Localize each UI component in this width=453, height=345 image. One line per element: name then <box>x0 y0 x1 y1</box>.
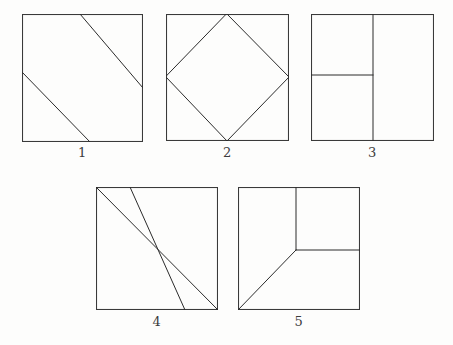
figure-1-diagonal-lower <box>22 72 90 142</box>
figure-3-drawing <box>311 14 434 141</box>
figure-4-caption: 4 <box>96 314 218 329</box>
figure-1-caption: 1 <box>22 145 143 160</box>
figure-3[interactable] <box>311 14 434 141</box>
figure-2-drawing <box>166 14 289 141</box>
figure-4-diagonal-parallel <box>130 187 185 310</box>
figure-1-drawing <box>22 14 143 142</box>
figure-5-caption: 5 <box>238 314 360 329</box>
figure-5-drawing <box>238 187 360 310</box>
figure-2-square <box>167 15 289 141</box>
figure-5[interactable] <box>238 187 360 310</box>
figure-1-diagonal-upper <box>80 14 143 88</box>
figure-2[interactable] <box>166 14 289 141</box>
figure-3-caption: 3 <box>311 145 434 160</box>
worksheet-canvas: 1 2 3 4 5 <box>0 0 453 345</box>
figure-5-diagonal-lower-left <box>238 250 296 310</box>
figure-4[interactable] <box>96 187 218 310</box>
figure-1-square <box>23 15 143 142</box>
figure-2-inscribed-diamond <box>166 14 289 141</box>
figure-4-drawing <box>96 187 218 310</box>
figure-2-caption: 2 <box>166 145 289 160</box>
figure-1[interactable] <box>22 14 143 142</box>
